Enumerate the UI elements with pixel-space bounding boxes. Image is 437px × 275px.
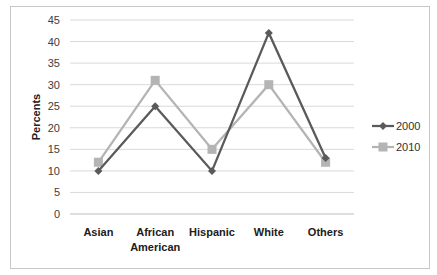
x-category-label: American bbox=[130, 241, 180, 253]
legend-item-2000: 2000 bbox=[372, 120, 420, 132]
y-tick-label: 0 bbox=[54, 208, 60, 220]
y-tick-label: 5 bbox=[54, 186, 60, 198]
square-marker bbox=[208, 145, 217, 154]
x-category-label: Asian bbox=[83, 226, 113, 238]
square-marker bbox=[94, 158, 103, 167]
square-marker bbox=[151, 76, 160, 85]
legend-label: 2000 bbox=[396, 120, 420, 132]
series-lines bbox=[94, 29, 330, 175]
line-chart: 051015202530354045 Percents AsianAfrican… bbox=[0, 0, 437, 275]
y-tick-label: 40 bbox=[48, 36, 60, 48]
y-tick-label: 30 bbox=[48, 79, 60, 91]
y-tick-label: 25 bbox=[48, 100, 60, 112]
square-marker bbox=[379, 143, 388, 152]
y-tick-label: 45 bbox=[48, 14, 60, 26]
x-category-label: Hispanic bbox=[189, 226, 235, 238]
x-category-label: White bbox=[254, 226, 284, 238]
diamond-marker bbox=[265, 29, 273, 37]
y-tick-label: 15 bbox=[48, 143, 60, 155]
square-marker bbox=[264, 80, 273, 89]
legend-item-2010: 2010 bbox=[372, 141, 420, 153]
y-axis-label: Percents bbox=[30, 94, 42, 140]
y-tick-label: 10 bbox=[48, 165, 60, 177]
diamond-marker bbox=[379, 122, 387, 130]
y-tick-label: 20 bbox=[48, 122, 60, 134]
x-category-label: Others bbox=[308, 226, 343, 238]
legend-label: 2010 bbox=[396, 141, 420, 153]
x-category-label: African bbox=[136, 226, 174, 238]
y-axis-ticks: 051015202530354045 bbox=[48, 14, 60, 220]
x-axis-categories: AsianAfricanAmericanHispanicWhiteOthers bbox=[83, 226, 343, 253]
legend: 20002010 bbox=[372, 120, 420, 153]
gridlines bbox=[70, 20, 354, 214]
y-tick-label: 35 bbox=[48, 57, 60, 69]
